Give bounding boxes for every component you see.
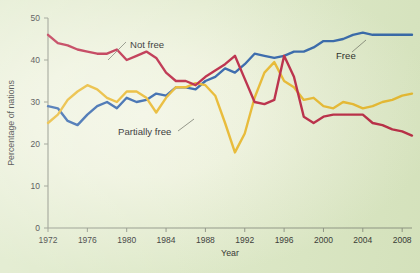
x-axis-title: Year [221,248,239,258]
x-tick-label: 1992 [235,235,254,245]
x-tick-label: 1996 [275,235,294,245]
x-tick-label: 1988 [196,235,215,245]
y-tick-label: 40 [31,55,41,65]
series-label-free: Free [336,50,356,61]
x-tick-label: 2004 [353,235,372,245]
y-axis-title: Percentage of nations [6,80,16,166]
x-tick-label: 1976 [78,235,97,245]
y-tick-label: 20 [31,139,41,149]
x-tick-label: 1972 [39,235,58,245]
series-line-free [48,33,412,125]
x-tick-label: 2008 [393,235,412,245]
y-tick-label: 30 [31,97,41,107]
axes-group [48,18,412,228]
x-tick-label: 1980 [117,235,136,245]
x-tick-group [48,228,402,232]
x-tick-label-group: 1972197619801984198819921996200020042008 [39,235,412,245]
series-group [48,33,412,153]
y-tick-label: 50 [31,13,41,23]
y-tick-label: 10 [31,181,41,191]
line-chart-svg: 01020304050 1972197619801984198819921996… [0,0,420,273]
leader-partially-free [178,119,194,131]
chart-canvas: 01020304050 1972197619801984198819921996… [0,0,420,273]
x-tick-label: 1984 [157,235,176,245]
series-line-partially-free [48,62,412,152]
annotation-leaders [108,40,366,131]
x-tick-label: 2000 [314,235,333,245]
y-tick-label: 0 [35,223,40,233]
series-label-partially-free: Partially free [118,126,171,137]
series-label-not-free: Not free [130,39,164,50]
series-line-not-free [48,35,412,136]
y-tick-label-group: 01020304050 [31,13,41,233]
